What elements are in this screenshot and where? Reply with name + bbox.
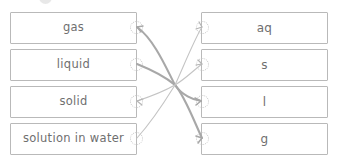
- connector-node-g[interactable]: [196, 132, 209, 145]
- left-option-gas[interactable]: gas: [10, 12, 137, 44]
- right-option-l[interactable]: l: [201, 86, 328, 118]
- left-option-liquid[interactable]: liquid: [10, 49, 137, 81]
- right-option-label: g: [261, 133, 269, 145]
- connector-node-solid[interactable]: [130, 95, 143, 108]
- left-option-solution-in-water[interactable]: solution in water: [10, 123, 137, 155]
- right-option-g[interactable]: g: [201, 123, 328, 155]
- connector-node-s[interactable]: [196, 58, 209, 71]
- connection-solution-to-aq[interactable]: [137, 27, 202, 138]
- connection-solid-to-s[interactable]: [137, 64, 202, 101]
- left-option-label: liquid: [57, 59, 90, 71]
- connector-node-l[interactable]: [196, 95, 209, 108]
- left-option-solid[interactable]: solid: [10, 86, 137, 118]
- matching-exercise-canvas: gas liquid solid solution in water aq s …: [0, 0, 339, 164]
- left-option-label: gas: [63, 22, 84, 34]
- right-option-label: aq: [257, 22, 273, 34]
- right-option-label: l: [263, 96, 267, 108]
- connector-node-aq[interactable]: [196, 21, 209, 34]
- left-option-label: solid: [59, 96, 87, 108]
- right-option-aq[interactable]: aq: [201, 12, 328, 44]
- connection-gas-to-l[interactable]: [137, 27, 201, 101]
- connector-node-liquid[interactable]: [130, 58, 143, 71]
- right-option-s[interactable]: s: [201, 49, 328, 81]
- left-option-label: solution in water: [23, 133, 124, 145]
- clipped-circle-mark: [39, 0, 52, 4]
- connector-node-gas[interactable]: [130, 21, 143, 34]
- right-option-label: s: [261, 59, 268, 71]
- connection-liquid-to-g[interactable]: [137, 64, 202, 138]
- connector-node-solution-in-water[interactable]: [130, 132, 143, 145]
